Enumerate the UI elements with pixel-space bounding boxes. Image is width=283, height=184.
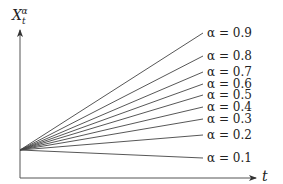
x-axis-label: t [262, 168, 268, 184]
alpha-rays-diagram: Xtα t α = 0.9α = 0.8α = 0.7α = 0.6α = 0.… [0, 0, 283, 184]
ray-line [20, 33, 203, 150]
ray-line [20, 84, 203, 150]
ray-line [20, 135, 203, 150]
y-axis-label: Xtα [11, 6, 28, 26]
ray-line [20, 150, 203, 158]
ray-line [20, 107, 203, 150]
ray-line [20, 72, 203, 150]
ray-label: α = 0.1 [207, 151, 252, 165]
ray-label: α = 0.2 [207, 128, 252, 142]
ray-label: α = 0.3 [207, 112, 252, 126]
ray-line [20, 119, 203, 150]
ray-label: α = 0.9 [207, 26, 252, 40]
ray-label: α = 0.8 [207, 49, 252, 63]
rays-group: α = 0.9α = 0.8α = 0.7α = 0.6α = 0.5α = 0… [20, 26, 252, 165]
